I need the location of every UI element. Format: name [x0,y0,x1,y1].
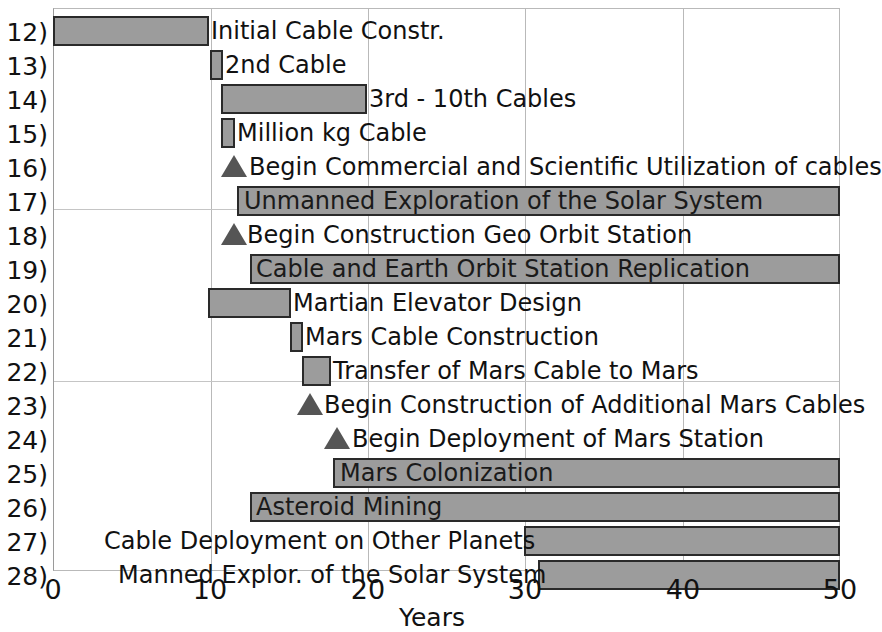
row-index-19: 19) [0,258,48,283]
row-index-24: 24) [0,428,48,453]
task-label-18: Begin Construction Geo Orbit Station [247,222,692,248]
milestone-triangle-icon-18[interactable] [221,223,247,245]
task-bar-15[interactable] [221,118,235,148]
task-bar-20[interactable] [208,288,291,318]
row-index-26: 26) [0,496,48,521]
task-label-13: 2nd Cable [225,52,346,78]
row-index-22: 22) [0,360,48,385]
task-label-25: Mars Colonization [340,460,553,486]
task-bar-21[interactable] [290,322,303,352]
row-index-12: 12) [0,20,48,45]
task-bar-14[interactable] [221,84,367,114]
task-label-14: 3rd - 10th Cables [369,86,576,112]
task-label-27: Cable Deployment on Other Planets [104,528,518,554]
xtick-0: 0 [13,576,93,603]
xtick-50: 50 [800,576,880,603]
task-label-21: Mars Cable Construction [305,324,599,350]
x-axis-title: Years [0,605,864,630]
row-index-15: 15) [0,122,48,147]
xtick-40: 40 [643,576,723,603]
task-bar-22[interactable] [302,356,331,386]
task-label-16: Begin Commercial and Scientific Utilizat… [249,154,882,180]
task-label-23: Begin Construction of Additional Mars Ca… [324,392,865,418]
milestone-triangle-icon-24[interactable] [324,427,350,449]
task-label-22: Transfer of Mars Cable to Mars [333,358,699,384]
row-index-21: 21) [0,326,48,351]
row-index-13: 13) [0,54,48,79]
row-index-16: 16) [0,156,48,181]
row-index-18: 18) [0,224,48,249]
task-label-26: Asteroid Mining [256,494,442,520]
task-bar-12[interactable] [53,16,209,46]
task-label-20: Martian Elevator Design [293,290,582,316]
row-index-17: 17) [0,190,48,215]
task-label-17: Unmanned Exploration of the Solar System [244,188,763,214]
row-index-27: 27) [0,530,48,555]
row-index-25: 25) [0,462,48,487]
xtick-20: 20 [328,576,408,603]
task-label-24: Begin Deployment of Mars Station [352,426,764,452]
row-index-14: 14) [0,88,48,113]
task-bar-13[interactable] [210,50,223,80]
task-label-15: Million kg Cable [237,120,427,146]
row-index-23: 23) [0,394,48,419]
xtick-30: 30 [485,576,565,603]
task-label-12: Initial Cable Constr. [211,18,445,44]
xtick-10: 10 [170,576,250,603]
task-label-19: Cable and Earth Orbit Station Replicatio… [256,256,750,282]
task-bar-27[interactable] [524,526,840,556]
milestone-triangle-icon-16[interactable] [221,155,247,177]
row-index-20: 20) [0,292,48,317]
milestone-triangle-icon-23[interactable] [297,393,323,415]
